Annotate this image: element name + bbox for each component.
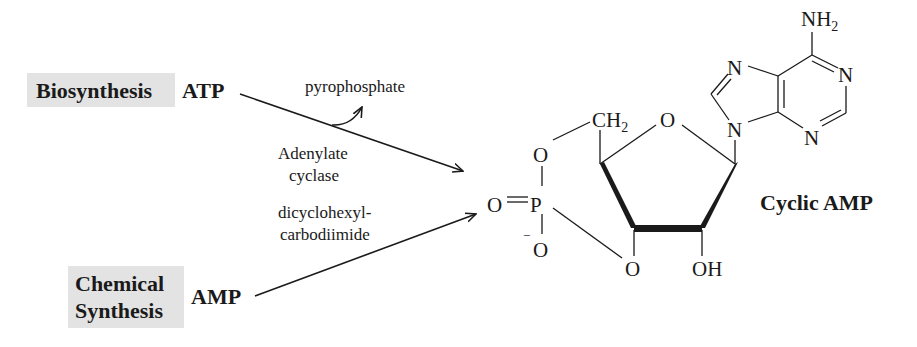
atom-n3: N: [804, 126, 819, 150]
pyrophosphate-release-arrow: [332, 107, 362, 125]
atom-n7: N: [727, 56, 742, 80]
pyrophosphate-label: pyrophosphate: [305, 77, 405, 96]
chemical-label: Chemical: [75, 271, 164, 296]
atom-o-ring: O: [660, 108, 675, 132]
cyclic-amp-diagram: Biosynthesis ATP Chemical Synthesis AMP …: [0, 0, 917, 347]
atom-o-double: O: [487, 193, 502, 217]
biosynthesis-source: Biosynthesis ATP: [27, 73, 224, 107]
dicyclohexyl-label: dicyclohexyl-: [278, 203, 372, 222]
atom-ch2: CH2: [592, 108, 628, 135]
atom-oh: OH: [692, 257, 722, 281]
carbodiimide-label: carbodiimide: [280, 225, 370, 244]
amp-label: AMP: [191, 284, 241, 309]
atom-n1: N: [838, 63, 853, 87]
atom-o-top: O: [533, 143, 548, 167]
atom-o-minus: O: [533, 238, 548, 262]
cyclic-amp-label: Cyclic AMP: [760, 190, 873, 215]
atom-p: P: [530, 193, 542, 217]
biosynthesis-label: Biosynthesis: [36, 78, 153, 103]
atp-label: ATP: [182, 78, 224, 103]
chemical-synthesis-source: Chemical Synthesis AMP: [68, 266, 241, 328]
atom-nh2: NH2: [801, 7, 838, 34]
adenylate-label: Adenylate: [278, 144, 348, 163]
cyclase-label: cyclase: [289, 166, 339, 185]
cyclic-amp-structure: O P O − O O CH2 O OH N N: [487, 7, 853, 281]
atom-n9: N: [727, 118, 742, 142]
atom-o-3prime: O: [625, 257, 640, 281]
synthesis-label: Synthesis: [75, 298, 163, 323]
minus-charge: −: [523, 228, 530, 243]
atp-reaction-arrow: [240, 94, 463, 171]
